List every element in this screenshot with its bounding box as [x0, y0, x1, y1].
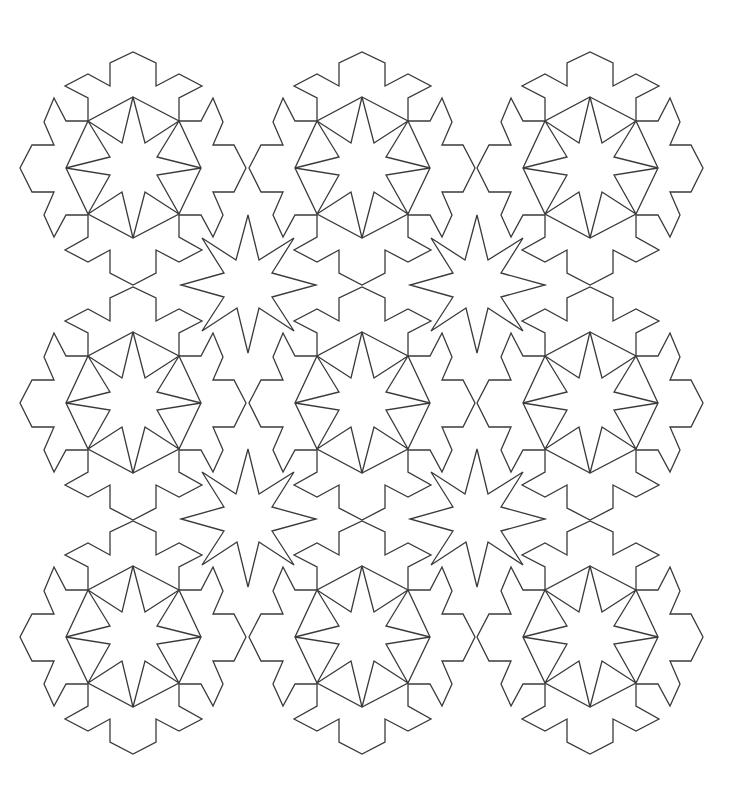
rosette-octagon: [523, 332, 658, 473]
rosette: [249, 521, 475, 754]
rosette-star-icon: [295, 566, 430, 707]
rosette-outline: [249, 52, 475, 285]
rosette-outline: [20, 521, 246, 754]
rosette-star-icon: [523, 97, 658, 238]
rosette-octagon: [295, 566, 430, 707]
rosette-outline: [20, 52, 246, 285]
rosette-star-icon: [523, 566, 658, 707]
rosette: [20, 287, 246, 520]
rosette-star-icon: [66, 566, 201, 707]
rosette-outline: [20, 287, 246, 520]
rosette: [249, 52, 475, 285]
eight-point-star-icon: [410, 215, 545, 353]
rosette-star-icon: [295, 332, 430, 473]
rosette-octagon: [523, 566, 658, 707]
rosette-star-icon: [66, 97, 201, 238]
rosette-outline: [477, 287, 703, 520]
eight-point-star-icon: [181, 449, 316, 587]
rosette-outline: [249, 521, 475, 754]
rosette-octagon: [523, 97, 658, 238]
eight-point-star-icon: [410, 449, 545, 587]
rosette: [477, 521, 703, 754]
rosette-octagon: [66, 332, 201, 473]
rosette-octagon: [295, 332, 430, 473]
eight-point-star-icon: [181, 215, 316, 353]
rosette-octagon: [66, 97, 201, 238]
rosette: [477, 52, 703, 285]
rosette-group: [20, 52, 703, 754]
rosette: [249, 287, 475, 520]
rosette-octagon: [66, 566, 201, 707]
rosette: [20, 52, 246, 285]
tessellation-canvas: [0, 0, 754, 797]
interstitial-star-group: [181, 215, 545, 587]
rosette-star-icon: [295, 97, 430, 238]
rosette-star-icon: [66, 332, 201, 473]
rosette: [477, 287, 703, 520]
rosette-outline: [477, 52, 703, 285]
rosette-outline: [249, 287, 475, 520]
rosette-outline: [477, 521, 703, 754]
rosette-octagon: [295, 97, 430, 238]
rosette: [20, 521, 246, 754]
rosette-star-icon: [523, 332, 658, 473]
